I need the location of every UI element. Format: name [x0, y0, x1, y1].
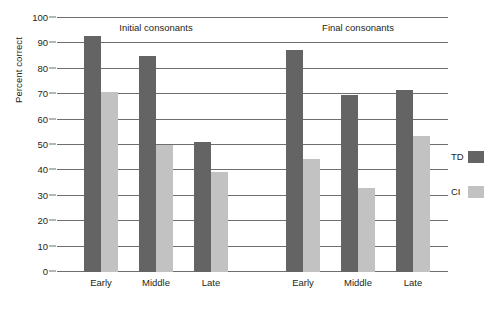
- bar-td-1-late: [194, 142, 211, 272]
- y-tick-dash-40: [49, 169, 56, 170]
- gridline-100: 100: [57, 17, 448, 18]
- y-tick-dash-0: [49, 271, 56, 272]
- bar-ci-2-late: [413, 136, 430, 272]
- x-label-2-early: Early: [292, 277, 314, 288]
- x-label-1-middle: Middle: [142, 277, 170, 288]
- y-tick-dash-30: [49, 194, 56, 195]
- bar-td-1-middle: [139, 56, 156, 272]
- y-tick-dash-10: [49, 245, 56, 246]
- y-tick-label-100: 100: [32, 12, 48, 23]
- bar-chart: Percent correct 0102030405060708090100 I…: [0, 0, 493, 314]
- bar-ci-1-early: [101, 92, 118, 272]
- y-tick-label-0: 0: [43, 266, 48, 277]
- x-label-1-late: Late: [202, 277, 221, 288]
- panel-title-1: Initial consonants: [119, 22, 192, 33]
- bar-ci-2-middle: [358, 188, 375, 272]
- y-tick-label-70: 70: [37, 88, 48, 99]
- x-label-2-middle: Middle: [344, 277, 372, 288]
- bar-ci-2-early: [303, 159, 320, 272]
- y-tick-dash-100: [49, 17, 56, 18]
- gridline-90: 90: [57, 42, 448, 43]
- y-tick-label-10: 10: [37, 240, 48, 251]
- y-tick-dash-90: [49, 42, 56, 43]
- legend-swatch-td: [468, 151, 484, 163]
- bar-ci-1-middle: [156, 145, 173, 272]
- y-tick-label-50: 50: [37, 139, 48, 150]
- legend-item-ci: CI: [451, 185, 493, 198]
- legend-label-ci: CI: [451, 186, 468, 197]
- bar-td-2-middle: [341, 95, 358, 272]
- bar-td-1-early: [84, 36, 101, 272]
- gridline-80: 80: [57, 68, 448, 69]
- y-tick-label-60: 60: [37, 113, 48, 124]
- bar-td-2-early: [286, 50, 303, 272]
- y-tick-label-80: 80: [37, 62, 48, 73]
- bar-ci-1-late: [211, 172, 228, 272]
- y-tick-dash-60: [49, 118, 56, 119]
- plot-area: 0102030405060708090100: [57, 18, 448, 272]
- y-tick-label-90: 90: [37, 37, 48, 48]
- panel-title-2: Final consonants: [322, 22, 394, 33]
- y-tick-dash-70: [49, 93, 56, 94]
- legend-label-td: TD: [451, 151, 468, 162]
- y-tick-label-20: 20: [37, 215, 48, 226]
- y-tick-dash-80: [49, 67, 56, 68]
- y-tick-label-30: 30: [37, 189, 48, 200]
- legend-swatch-ci: [468, 186, 484, 198]
- y-tick-dash-50: [49, 144, 56, 145]
- y-tick-label-40: 40: [37, 164, 48, 175]
- x-label-2-late: Late: [404, 277, 423, 288]
- x-label-1-early: Early: [90, 277, 112, 288]
- legend-item-td: TD: [451, 150, 493, 163]
- legend: TD CI: [451, 150, 493, 220]
- y-tick-dash-20: [49, 220, 56, 221]
- y-axis-title: Percent correct: [13, 15, 27, 125]
- bar-td-2-late: [396, 90, 413, 272]
